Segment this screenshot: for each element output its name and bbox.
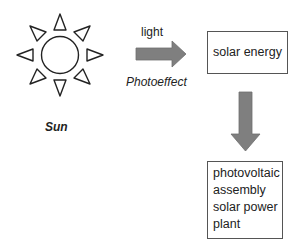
- box2-line: solar power: [213, 199, 282, 216]
- box2-line: photovoltaic: [213, 165, 282, 182]
- sun-label: Sun: [45, 120, 68, 134]
- solar-energy-text: solar energy: [213, 44, 282, 61]
- arrow-down-icon: [231, 92, 260, 151]
- sun-icon: [17, 14, 103, 96]
- photovoltaic-assembly-box: photovoltaic assembly solar power plant: [207, 161, 283, 239]
- light-label: light: [141, 25, 163, 39]
- box2-line: plant: [213, 216, 282, 233]
- box2-line: assembly: [213, 182, 282, 199]
- arrow-right-icon: [136, 41, 186, 67]
- photoeffect-label: Photoeffect: [126, 75, 187, 89]
- solar-energy-box: solar energy: [207, 31, 288, 74]
